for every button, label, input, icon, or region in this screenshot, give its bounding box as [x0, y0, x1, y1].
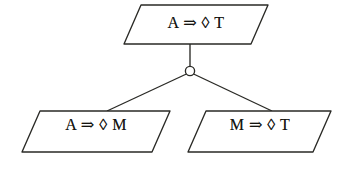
diagram-canvas: A ⇒ ◊ T A ⇒ ◊ M M ⇒ ◊ T [0, 0, 350, 172]
edge-junction-to-right [194, 74, 272, 111]
edge-junction-to-left [107, 74, 186, 111]
node-left-label: A ⇒ ◊ M [46, 117, 146, 133]
node-right-label: M ⇒ ◊ T [212, 117, 308, 133]
and-junction-icon[interactable] [185, 66, 194, 75]
node-root-label: A ⇒ ◊ T [148, 15, 244, 31]
